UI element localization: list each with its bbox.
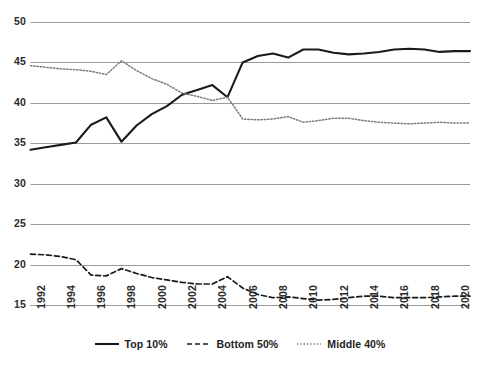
x-tick-label-2010: 2010 xyxy=(307,285,319,309)
x-tick-label-2016: 2016 xyxy=(398,285,410,309)
x-tick-label-1992: 1992 xyxy=(35,285,47,309)
x-tick-label-2004: 2004 xyxy=(216,285,228,309)
x-tick-label-2006: 2006 xyxy=(247,285,259,309)
y-tick-label-45: 45 xyxy=(0,55,26,67)
gridlines xyxy=(31,23,471,306)
y-tick-label-40: 40 xyxy=(0,96,26,108)
x-tick-label-2002: 2002 xyxy=(186,285,198,309)
x-tick-label-2012: 2012 xyxy=(338,285,350,309)
y-tick-label-50: 50 xyxy=(0,15,26,27)
legend-label-2: Middle 40% xyxy=(327,338,385,350)
line-chart: 5045403530252015 19921994199619982000200… xyxy=(0,0,479,372)
legend-item-1[interactable]: Bottom 50% xyxy=(186,338,279,350)
legend-swatch-icon-1 xyxy=(186,339,212,349)
series-line-0 xyxy=(31,49,471,150)
x-tick-label-2014: 2014 xyxy=(368,285,380,309)
series-lines xyxy=(31,49,471,300)
legend-label-1: Bottom 50% xyxy=(217,338,279,350)
x-tick-label-1998: 1998 xyxy=(125,285,137,309)
legend-swatch-icon-2 xyxy=(296,339,322,349)
chart-legend: Top 10%Bottom 50%Middle 40% xyxy=(0,338,479,350)
x-tick-label-2020: 2020 xyxy=(459,285,471,309)
legend-item-0[interactable]: Top 10% xyxy=(94,338,168,350)
legend-item-2[interactable]: Middle 40% xyxy=(296,338,385,350)
legend-swatch-icon-0 xyxy=(94,339,120,349)
legend-label-0: Top 10% xyxy=(125,338,168,350)
x-tick-label-1994: 1994 xyxy=(65,285,77,309)
plot-area xyxy=(0,0,479,372)
x-tick-label-2000: 2000 xyxy=(156,285,168,309)
y-tick-label-35: 35 xyxy=(0,136,26,148)
y-tick-label-15: 15 xyxy=(0,298,26,310)
x-tick-label-2018: 2018 xyxy=(429,285,441,309)
y-tick-label-25: 25 xyxy=(0,217,26,229)
x-tick-label-2008: 2008 xyxy=(277,285,289,309)
y-tick-label-20: 20 xyxy=(0,258,26,270)
y-tick-label-30: 30 xyxy=(0,177,26,189)
x-tick-label-1996: 1996 xyxy=(95,285,107,309)
series-line-2 xyxy=(31,61,471,124)
